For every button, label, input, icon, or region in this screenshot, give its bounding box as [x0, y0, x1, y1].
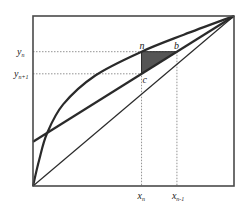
y-n-label: yn: [16, 46, 24, 58]
x-n-sub: n: [142, 196, 145, 202]
x-n1-sub: n-1: [176, 196, 184, 202]
point-label-b: b: [174, 40, 179, 51]
y-n-sub: n: [21, 52, 24, 58]
mccabe-thiele-diagram: n b c yn yn+1 xn xn-1: [0, 0, 249, 210]
x-n-label: xn: [137, 190, 145, 202]
diagonal-line: [33, 16, 234, 186]
point-label-c: c: [143, 74, 148, 85]
x-n-minus-1-label: xn-1: [171, 190, 184, 202]
y-n1-sub: n+1: [18, 74, 28, 80]
point-label-n: n: [140, 40, 145, 51]
y-n-plus-1-label: yn+1: [13, 68, 29, 80]
operating-line: [33, 16, 234, 142]
